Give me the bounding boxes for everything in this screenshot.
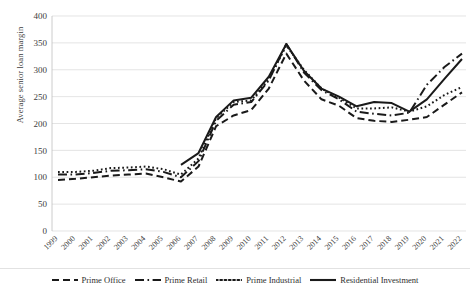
x-tick-label: 2012 bbox=[270, 234, 288, 252]
x-tick-label: 2022 bbox=[446, 234, 464, 252]
x-tick-label: 2008 bbox=[200, 234, 218, 252]
dashed-swatch bbox=[52, 276, 78, 284]
series-line bbox=[181, 44, 462, 165]
y-tick-label: 200 bbox=[34, 119, 48, 129]
legend-item[interactable]: Prime Industrial bbox=[216, 275, 301, 285]
x-tick-label: 2020 bbox=[411, 234, 429, 252]
x-tick-label: 2013 bbox=[288, 234, 306, 252]
series-line bbox=[58, 46, 462, 175]
x-tick-label: 2021 bbox=[428, 234, 446, 252]
series-line bbox=[58, 54, 462, 182]
x-tick-label: 2006 bbox=[165, 234, 183, 252]
y-tick-label: 0 bbox=[43, 226, 48, 236]
x-tick-label: 1999 bbox=[42, 234, 60, 252]
y-tick-label: 50 bbox=[38, 199, 48, 209]
y-tick-label: 250 bbox=[34, 92, 48, 102]
series-group bbox=[58, 44, 462, 182]
legend-item[interactable]: Prime Retail bbox=[135, 275, 208, 285]
x-tick-label: 2018 bbox=[375, 234, 393, 252]
legend-item[interactable]: Residential Investment bbox=[310, 275, 418, 285]
x-tick-label: 2009 bbox=[217, 234, 235, 252]
x-tick-label: 2017 bbox=[358, 234, 376, 252]
x-tick-label: 2004 bbox=[130, 234, 148, 252]
chart-container: Average senior loan margin 0501001502002… bbox=[0, 0, 470, 301]
x-tick-label: 2019 bbox=[393, 234, 411, 252]
x-tick-label: 2005 bbox=[147, 234, 165, 252]
dotted-swatch bbox=[216, 276, 242, 284]
x-tick-label: 2000 bbox=[59, 234, 77, 252]
y-tick-label: 150 bbox=[34, 146, 48, 156]
legend-label: Prime Industrial bbox=[246, 275, 301, 285]
x-tick-label: 2010 bbox=[235, 234, 253, 252]
legend-label: Prime Retail bbox=[165, 275, 208, 285]
y-tick-label: 100 bbox=[34, 172, 48, 182]
legend-label: Residential Investment bbox=[340, 275, 418, 285]
x-tick-label: 2001 bbox=[77, 234, 95, 252]
x-tick-label: 2002 bbox=[94, 234, 112, 252]
y-tick-label: 350 bbox=[34, 38, 48, 48]
legend-label: Prime Office bbox=[82, 275, 126, 285]
x-tick-label: 2015 bbox=[323, 234, 341, 252]
y-tick-label: 400 bbox=[34, 11, 48, 21]
x-tick-label: 2016 bbox=[340, 234, 358, 252]
y-tick-labels-group: 050100150200250300350400 bbox=[34, 11, 48, 236]
series-line bbox=[58, 44, 462, 177]
x-tick-label: 2007 bbox=[182, 234, 200, 252]
line-chart-svg: 050100150200250300350400 199920002001200… bbox=[0, 0, 470, 268]
x-tick-label: 2003 bbox=[112, 234, 130, 252]
solid-swatch bbox=[310, 276, 336, 284]
x-tick-label: 2014 bbox=[305, 234, 323, 252]
legend-item[interactable]: Prime Office bbox=[52, 275, 126, 285]
x-tick-label: 2011 bbox=[253, 234, 270, 251]
dash-dot-swatch bbox=[135, 276, 161, 284]
chart-legend: Prime OfficePrime RetailPrime Industrial… bbox=[0, 268, 470, 291]
x-tick-labels-group: 1999200020012002200320042005200620072008… bbox=[42, 234, 464, 252]
gridlines-group bbox=[52, 16, 466, 231]
y-tick-label: 300 bbox=[34, 65, 48, 75]
plot-area: 050100150200250300350400 199920002001200… bbox=[0, 0, 470, 301]
